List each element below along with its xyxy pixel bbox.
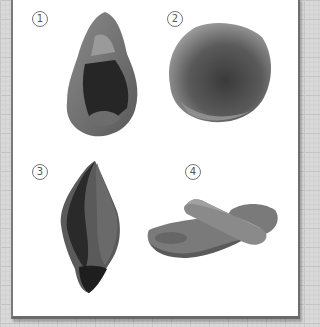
figure-panel: 1 2 3 4 xyxy=(11,0,300,319)
hand-axe-image xyxy=(55,12,145,140)
grinding-stone-image xyxy=(147,194,281,260)
item-label-4: 4 xyxy=(185,164,201,180)
item-label-1: 1 xyxy=(32,11,48,27)
stone-blade-image xyxy=(57,161,123,295)
item-label-3: 3 xyxy=(32,164,48,180)
hammer-stone-image xyxy=(166,21,274,125)
